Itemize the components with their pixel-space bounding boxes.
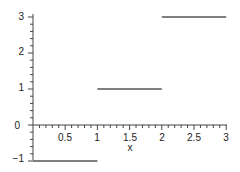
x-tick-label-3: 3 [223, 132, 229, 143]
x-tick-label-2.5: 2.5 [187, 132, 201, 143]
y-tick-label-3: 3 [18, 11, 24, 22]
step-chart: 3 2 1 0 −1 0.5 1 1.5 2 2.5 3 x [0, 0, 240, 172]
y-ticks [28, 17, 33, 161]
y-tick-label-2: 2 [18, 46, 24, 57]
y-tick-label-1: 1 [18, 82, 24, 93]
x-tick-label-1: 1 [94, 132, 100, 143]
x-tick-label-0.5: 0.5 [58, 132, 72, 143]
x-axis-title: x [128, 142, 133, 153]
x-ticks [39, 125, 226, 130]
x-tick-label-2: 2 [159, 132, 165, 143]
y-tick-label-neg1: −1 [13, 153, 25, 164]
y-tick-label-0: 0 [14, 120, 20, 131]
